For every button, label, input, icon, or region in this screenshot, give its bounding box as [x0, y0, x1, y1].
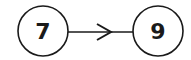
edge-7-to-9 [68, 24, 133, 40]
graph-diagram: 7 9 [0, 0, 191, 60]
node-label: 9 [150, 19, 165, 44]
node-9: 9 [133, 6, 183, 56]
node-label: 7 [35, 19, 50, 44]
node-7: 7 [18, 6, 68, 56]
